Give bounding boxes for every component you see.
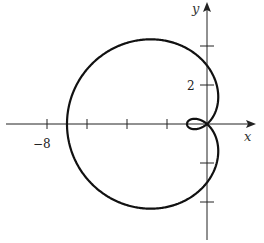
polar-plot: x y −8 2 xyxy=(0,0,264,243)
y-axis-label: y xyxy=(191,1,200,16)
y-tick-label-2: 2 xyxy=(187,79,195,93)
x-axis-label: x xyxy=(244,129,252,144)
x-tick-label-minus8: −8 xyxy=(33,137,51,151)
